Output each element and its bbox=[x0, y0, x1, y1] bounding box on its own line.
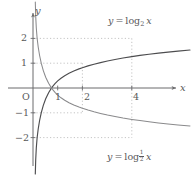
x-tick-label-2: 2 bbox=[84, 92, 90, 102]
label-y-lower: y bbox=[107, 151, 112, 162]
label-arg-upper: x bbox=[146, 15, 151, 26]
y-tick-label-2: 2 bbox=[21, 33, 27, 43]
y-tick-label-minus-1: −1 bbox=[15, 108, 29, 118]
y-tick-label-1: 1 bbox=[21, 58, 27, 68]
y-tick-label-minus-2: −2 bbox=[15, 133, 29, 143]
origin-label: O bbox=[22, 92, 30, 102]
label-log-lower: log bbox=[124, 151, 139, 162]
label-base-fraction-lower: 12 bbox=[139, 150, 144, 162]
label-base-upper: 2 bbox=[140, 20, 144, 28]
x-tick-label-4: 4 bbox=[133, 92, 139, 102]
x-tick-label-1: 1 bbox=[55, 92, 61, 102]
plot-canvas bbox=[0, 0, 196, 176]
label-y-upper: y bbox=[108, 15, 113, 26]
label-arg-lower: x bbox=[146, 151, 151, 162]
y-axis-label: y bbox=[35, 6, 41, 16]
curve-label-log-base-one-half: y=log12x bbox=[107, 150, 151, 162]
label-equals-upper: = bbox=[115, 15, 123, 26]
label-log-upper: log bbox=[125, 15, 140, 26]
curve-label-log-base-2: y=log2x bbox=[108, 16, 152, 27]
y-axis bbox=[31, 13, 35, 166]
fraction-denominator: 2 bbox=[139, 157, 144, 163]
x-axis-label: x bbox=[180, 83, 186, 93]
logarithm-graph-figure: y x O 1 2 4 2 1 −1 −2 y=log2x y=log12x bbox=[0, 0, 196, 176]
label-equals-lower: = bbox=[114, 151, 122, 162]
